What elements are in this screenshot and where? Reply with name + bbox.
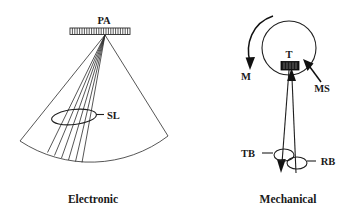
label-m: M: [241, 71, 251, 82]
mechanical-panel: T M MS TB RB Mechanical: [241, 16, 335, 205]
motion-arrow-head: [246, 57, 255, 70]
label-tb: TB: [241, 148, 255, 159]
sector-scan-field: [20, 35, 168, 162]
ultrasound-scanning-diagram: PA SL Electronic: [0, 0, 344, 218]
electronic-panel: PA SL Electronic: [20, 15, 168, 205]
label-pa: PA: [97, 15, 111, 26]
scan-lines-bundle: [48, 35, 106, 163]
label-rb: RB: [321, 156, 336, 167]
diagram-canvas: PA SL Electronic: [0, 0, 344, 218]
motion-arc-arrow: [248, 16, 273, 62]
phased-array-bar: [70, 28, 130, 35]
label-sl: SL: [107, 110, 120, 121]
caption-mechanical: Mechanical: [260, 193, 317, 205]
label-t: T: [285, 49, 292, 60]
label-ms: MS: [314, 83, 330, 94]
array-housing: [70, 28, 130, 35]
caption-electronic: Electronic: [68, 193, 118, 205]
rb-callout-ellipse: [287, 157, 307, 169]
